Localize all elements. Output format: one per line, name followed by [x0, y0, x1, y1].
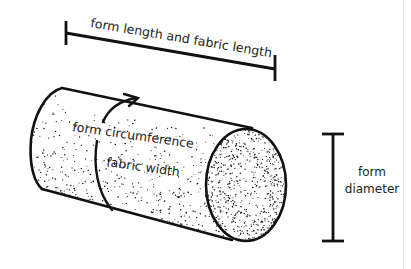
circumference-arrow — [96, 94, 138, 210]
cylinder-bottom-edge — [42, 189, 232, 240]
circumference-arc-lower — [96, 141, 112, 210]
diameter-label-line1: form — [358, 165, 386, 179]
cylinder-left-end — [31, 88, 62, 189]
cylinder-end-cap — [206, 129, 286, 241]
diameter-label-line2: diameter — [345, 182, 399, 196]
diameter-dimension — [322, 134, 344, 241]
cylinder-form-diagram: form length and fabric length form circu… — [0, 0, 411, 269]
